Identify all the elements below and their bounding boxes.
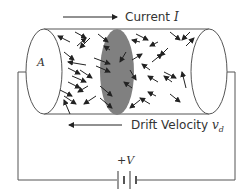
area-label: A	[37, 57, 45, 68]
drift-symbol: v	[212, 118, 219, 132]
drift-label-text: Drift Velocity	[131, 118, 208, 132]
drift-subscript: d	[219, 125, 224, 134]
drift-velocity-label: Drift Velocity vd	[131, 119, 224, 134]
current-symbol: I	[174, 10, 179, 24]
current-label: Current I	[125, 11, 179, 23]
conductor-diagram: Current I Drift Velocity vd A +V	[0, 0, 247, 191]
current-label-text: Current	[125, 10, 170, 24]
voltage-label: +V	[117, 155, 134, 166]
battery-icon	[118, 171, 136, 189]
